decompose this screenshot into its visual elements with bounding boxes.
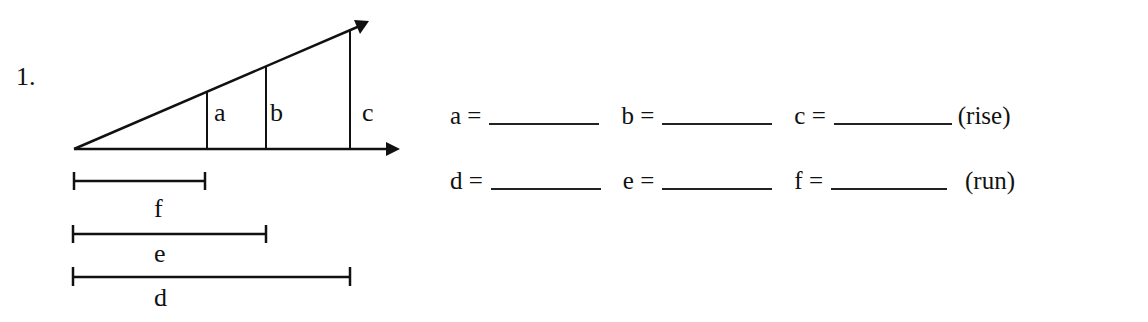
field-c-label: c = bbox=[794, 102, 825, 130]
field-a-label: a = bbox=[450, 102, 481, 130]
field-d: d = bbox=[450, 166, 601, 195]
segment-f bbox=[74, 172, 205, 190]
label-b: b bbox=[270, 98, 283, 127]
answer-e-input[interactable] bbox=[662, 166, 772, 190]
label-d: d bbox=[154, 283, 167, 312]
field-f: f = bbox=[794, 166, 947, 195]
label-f: f bbox=[154, 194, 163, 223]
label-a: a bbox=[214, 98, 226, 127]
answer-f-input[interactable] bbox=[831, 166, 947, 190]
answer-a-input[interactable] bbox=[489, 101, 599, 125]
rise-tag: (rise) bbox=[958, 102, 1011, 130]
field-b-label: b = bbox=[621, 102, 654, 130]
field-f-label: f = bbox=[794, 167, 823, 195]
field-e: e = bbox=[623, 166, 772, 195]
rise-answer-row: a = b = c = (rise) bbox=[450, 98, 1011, 130]
answer-b-input[interactable] bbox=[662, 101, 772, 125]
run-answer-row: d = e = f = (run) bbox=[450, 163, 1015, 195]
similar-triangles-diagram: a b c f e d bbox=[0, 0, 420, 322]
arrowhead-right-icon bbox=[386, 142, 400, 156]
segment-d bbox=[73, 267, 350, 286]
field-b: b = bbox=[621, 101, 772, 130]
answer-c-input[interactable] bbox=[834, 101, 952, 125]
segment-e bbox=[73, 225, 266, 243]
run-tag: (run) bbox=[965, 167, 1015, 195]
field-e-label: e = bbox=[623, 167, 654, 195]
label-c: c bbox=[362, 98, 374, 127]
horizontal-axis bbox=[74, 142, 400, 156]
hypotenuse-line bbox=[74, 20, 369, 149]
field-a: a = bbox=[450, 101, 599, 130]
label-e: e bbox=[154, 239, 166, 268]
answer-d-input[interactable] bbox=[491, 166, 601, 190]
field-c: c = bbox=[794, 101, 951, 130]
field-d-label: d = bbox=[450, 167, 483, 195]
